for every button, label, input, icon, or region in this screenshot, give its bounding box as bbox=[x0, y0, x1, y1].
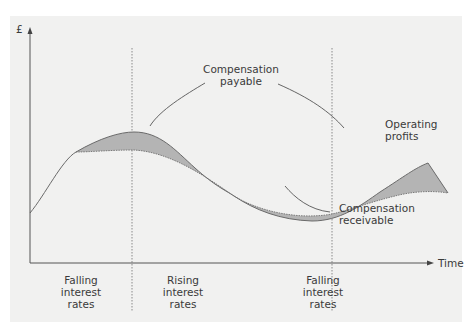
payable-leader-left bbox=[150, 83, 205, 126]
payable-leader-right bbox=[278, 84, 344, 128]
x-axis-label: Time bbox=[438, 257, 464, 269]
period-label-2: Rising interest rates bbox=[142, 274, 224, 310]
period-label-1: Falling interest rates bbox=[40, 274, 122, 310]
label-compensation-payable: Compensation payable bbox=[196, 63, 286, 87]
x-axis-arrow-icon bbox=[427, 261, 434, 266]
label-compensation-receivable: Compensation receivable bbox=[339, 202, 415, 226]
y-axis-arrow-icon bbox=[28, 27, 33, 34]
label-operating-profits: Operating profits bbox=[385, 118, 438, 142]
y-axis-label: £ bbox=[16, 23, 23, 35]
receivable-leader bbox=[285, 186, 330, 212]
period-label-3: Falling interest rates bbox=[282, 274, 364, 310]
